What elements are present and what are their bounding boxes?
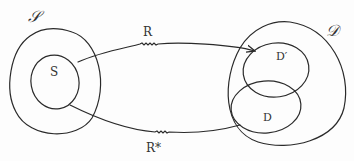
target-subset-prime: D′ bbox=[240, 39, 313, 102]
mapping-r-star: R* bbox=[70, 105, 240, 155]
source-universe-label: 𝒮 bbox=[28, 7, 45, 26]
source-subset-label: S bbox=[50, 65, 58, 79]
target-subset-label: D bbox=[263, 111, 272, 124]
diagram-svg: 𝒮 S 𝒟 D′ D R R* bbox=[0, 0, 354, 161]
source-subset: S bbox=[27, 51, 84, 113]
diagram-canvas: 𝒮 S 𝒟 D′ D R R* bbox=[0, 0, 354, 161]
mapping-r-star-label: R* bbox=[146, 141, 161, 155]
mapping-r: R bbox=[78, 25, 255, 62]
target-universe-label: 𝒟 bbox=[326, 21, 342, 40]
target-subset: D bbox=[229, 78, 303, 136]
mapping-r-label: R bbox=[143, 25, 153, 39]
target-subset-prime-label: D′ bbox=[276, 50, 288, 63]
